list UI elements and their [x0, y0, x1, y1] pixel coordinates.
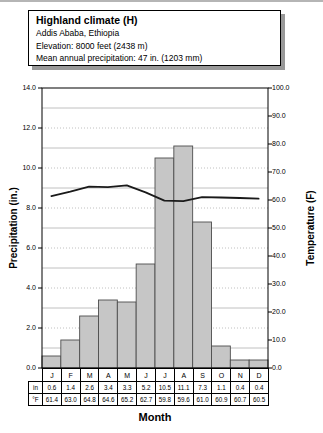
temperature-tick-label: 60.0	[272, 195, 286, 204]
climate-precipitation: Mean annual precipitation: 47 in. (1203 …	[36, 52, 273, 65]
precip-value-cell: 0.4	[231, 382, 250, 394]
precip-bar	[99, 300, 118, 368]
precip-bar	[174, 146, 193, 368]
table-spacer-cell	[29, 369, 43, 382]
precipitation-tick-label: 6.0	[0, 243, 36, 252]
month-cell: M	[118, 369, 137, 382]
left-axis-title: Precipitation (in.)	[8, 187, 19, 269]
precip-value-cell: 3.4	[99, 382, 118, 394]
precipitation-tick-label: 2.0	[0, 323, 36, 332]
month-cell: S	[193, 369, 212, 382]
temperature-tick-label: 100.0	[272, 83, 290, 92]
precip-value-cell: 7.3	[193, 382, 212, 394]
precip-bar	[212, 346, 231, 368]
month-cell: O	[212, 369, 231, 382]
precip-bar	[249, 360, 268, 368]
temperature-tick-label: 20.0	[272, 307, 286, 316]
precip-value-cell: 0.6	[43, 382, 62, 394]
temperature-tick-label: 0.0	[272, 363, 282, 372]
precip-value-cell: 11.1	[174, 382, 193, 394]
temperature-tick-label: 30.0	[272, 279, 286, 288]
precip-value-cell: 1.4	[61, 382, 80, 394]
precipitation-tick-label: 4.0	[0, 283, 36, 292]
climate-elevation: Elevation: 8000 feet (2438 m)	[36, 40, 273, 53]
precip-bar	[117, 302, 136, 368]
precip-value-cell: 2.6	[80, 382, 99, 394]
temp-value-cell: 60.5	[250, 394, 269, 406]
climate-title: Highland climate (H)	[36, 14, 273, 27]
precip-bar	[155, 158, 174, 368]
month-cell: N	[231, 369, 250, 382]
precip-value-cell: 1.1	[212, 382, 231, 394]
month-cell: J	[137, 369, 156, 382]
climate-info-box: Highland climate (H) Addis Ababa, Ethiop…	[28, 10, 281, 66]
row-label-cell: in	[29, 382, 43, 394]
temp-value-cell: 61.0	[193, 394, 212, 406]
climate-city: Addis Ababa, Ethiopia	[36, 27, 273, 40]
precipitation-tick-label: 14.0	[0, 83, 36, 92]
month-cell: D	[250, 369, 269, 382]
month-cell: A	[174, 369, 193, 382]
temperature-tick-label: 80.0	[272, 139, 286, 148]
precip-value-cell: 5.2	[137, 382, 156, 394]
precipitation-tick-label: 10.0	[0, 163, 36, 172]
precipitation-tick-label: 8.0	[0, 203, 36, 212]
precip-bar	[61, 340, 80, 368]
precip-value-cell: 3.3	[118, 382, 137, 394]
temp-value-cell: 62.7	[137, 394, 156, 406]
month-cell: F	[61, 369, 80, 382]
temperature-tick-label: 50.0	[272, 223, 286, 232]
temperature-tick-label: 70.0	[272, 167, 286, 176]
precip-bar	[230, 360, 249, 368]
temp-value-cell: 60.9	[212, 394, 231, 406]
monthly-data-table: JFMAMJJASONDin0.61.42.63.43.35.210.511.1…	[28, 368, 269, 406]
temp-value-cell: 64.6	[99, 394, 118, 406]
precip-bar	[80, 316, 99, 368]
temp-value-cell: 59.8	[155, 394, 174, 406]
month-cell: J	[155, 369, 174, 382]
precip-bar	[42, 356, 61, 368]
precipitation-tick-label: 12.0	[0, 123, 36, 132]
precip-value-cell: 10.5	[155, 382, 174, 394]
row-label-cell: °F	[29, 394, 43, 406]
month-cell: M	[80, 369, 99, 382]
table-row: in0.61.42.63.43.35.210.511.17.31.10.40.4	[29, 382, 269, 394]
month-cell: A	[99, 369, 118, 382]
month-cell: J	[43, 369, 62, 382]
table-row: °F61.463.064.864.665.262.759.859.661.060…	[29, 394, 269, 406]
temp-value-cell: 64.8	[80, 394, 99, 406]
temperature-tick-label: 90.0	[272, 111, 286, 120]
precip-value-cell: 0.4	[250, 382, 269, 394]
plot-area	[42, 88, 268, 368]
temperature-tick-label: 40.0	[272, 251, 286, 260]
climate-chart-screen: Highland climate (H) Addis Ababa, Ethiop…	[0, 0, 323, 433]
precip-bar	[193, 222, 212, 368]
temp-value-cell: 61.4	[43, 394, 62, 406]
table-row: JFMAMJJASOND	[29, 369, 269, 382]
temp-value-cell: 63.0	[61, 394, 80, 406]
x-axis-title: Month	[42, 411, 268, 423]
temp-value-cell: 65.2	[118, 394, 137, 406]
temp-value-cell: 59.6	[174, 394, 193, 406]
temp-value-cell: 60.7	[231, 394, 250, 406]
right-axis-title: Temperature (F)	[305, 190, 316, 265]
precip-bar	[136, 264, 155, 368]
temperature-tick-label: 10.0	[272, 335, 286, 344]
